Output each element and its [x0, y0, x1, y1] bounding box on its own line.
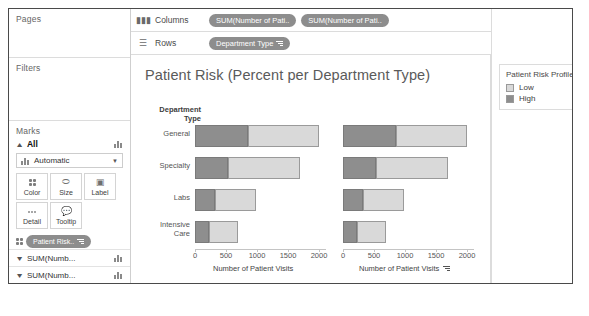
legend-item-high[interactable]: High — [506, 94, 573, 103]
x-axis-line — [195, 249, 326, 250]
x-axis-title-2-label: Number of Patient Visits — [359, 264, 439, 273]
bar-intensive-care — [195, 221, 238, 243]
row-field-header-line2: Type — [141, 114, 201, 123]
sort-icon[interactable] — [443, 265, 450, 272]
x-tick-500: 500 — [368, 251, 381, 260]
marks-card-title: Marks — [16, 126, 123, 136]
legend-item-low[interactable]: Low — [506, 83, 573, 92]
bar-segment-low[interactable] — [209, 221, 238, 243]
label-icon: ▣ — [96, 177, 105, 188]
rows-shelf-label: Rows — [155, 38, 202, 48]
bar-specialty — [195, 157, 300, 179]
filters-shelf-title: Filters — [16, 63, 123, 73]
size-oval-icon: ⬭ — [62, 177, 70, 188]
marks-all-row[interactable]: ▲ All — [9, 138, 130, 153]
marks-tooltip-button[interactable]: 💬 Tooltip — [50, 202, 82, 229]
x-axis-title-1-label: Number of Patient Visits — [213, 264, 293, 273]
x-tick-2000: 2000 — [311, 251, 328, 260]
x-axis-line — [343, 249, 474, 250]
columns-shelf-pills: SUM(Number of Pati.. SUM(Number of Pati.… — [209, 14, 389, 27]
color-legend[interactable]: Patient Risk Profile Low High — [499, 64, 573, 110]
bar-chart-icon — [114, 271, 123, 279]
left-shelf-panel: Pages Filters Marks ▲ All Automatic ▼ — [9, 9, 131, 283]
marks-color-button[interactable]: Color — [16, 173, 48, 200]
legend-label-high: High — [519, 94, 535, 103]
bar-segment-low[interactable] — [363, 189, 404, 211]
bar-segment-high[interactable] — [195, 125, 248, 147]
columns-pill-2[interactable]: SUM(Number of Pati.. — [301, 14, 388, 27]
page-title: Patient Risk (Percent per Department Typ… — [145, 67, 430, 83]
bar-segment-low[interactable] — [228, 157, 300, 179]
bar-segment-high[interactable] — [343, 189, 363, 211]
columns-icon: ▮▮▮ — [138, 15, 148, 25]
marks-card: Marks ▲ All Automatic ▼ Color — [9, 121, 130, 248]
x-tick-1000: 1000 — [397, 251, 414, 260]
marks-buttons-grid: Color ⬭ Size ▣ Label Detail 💬 — [16, 173, 123, 229]
bar-segment-low[interactable] — [357, 221, 386, 243]
columns-shelf-label: Columns — [155, 15, 202, 25]
bar-segment-low[interactable] — [376, 157, 448, 179]
bar-segment-high[interactable] — [195, 157, 228, 179]
marks-label-label: Label — [91, 189, 108, 196]
rows-icon: ☰ — [138, 38, 148, 48]
viz-right-blank — [491, 9, 573, 284]
x-tick-0: 0 — [341, 251, 345, 260]
marks-size-button[interactable]: ⬭ Size — [50, 173, 82, 200]
legend-swatch-high — [506, 95, 514, 103]
legend-label-low: Low — [519, 83, 534, 92]
color-squares-icon — [29, 177, 36, 188]
bar-intensive-care — [343, 221, 386, 243]
mark-type-value: Automatic — [34, 156, 108, 165]
bar-segment-high[interactable] — [343, 157, 376, 179]
bar-chart-icon — [21, 157, 30, 165]
marks-color-pill-row: Patient Risk.. — [16, 235, 123, 248]
tableau-worksheet-window: Pages Filters Marks ▲ All Automatic ▼ — [8, 8, 573, 284]
measure-cards: ▼ SUM(Numb... ▼ SUM(Numb... — [9, 249, 130, 283]
marks-pill-patient-risk[interactable]: Patient Risk.. — [26, 235, 91, 248]
mark-type-select[interactable]: Automatic ▼ — [16, 153, 123, 168]
sort-icon — [276, 40, 283, 47]
marks-detail-button[interactable]: Detail — [16, 202, 48, 229]
bar-segment-high[interactable] — [343, 221, 357, 243]
row-label-intensive-care: IntensiveCare — [146, 220, 195, 238]
legend-swatch-low — [506, 84, 514, 92]
x-tick-0: 0 — [193, 251, 197, 260]
x-tick-500: 500 — [220, 251, 233, 260]
color-legend-title: Patient Risk Profile — [506, 70, 573, 79]
rows-pill-1[interactable]: Department Type — [209, 37, 290, 50]
bar-labs — [195, 189, 256, 211]
row-field-header-line1: Department — [141, 105, 201, 114]
filters-shelf[interactable]: Filters — [9, 58, 130, 121]
bar-general — [195, 125, 319, 147]
bar-chart-icon — [114, 254, 123, 262]
x-tick-1000: 1000 — [249, 251, 266, 260]
columns-pill-1[interactable]: SUM(Number of Pati.. — [209, 14, 296, 27]
color-squares-icon — [16, 238, 23, 245]
marks-detail-label: Detail — [23, 218, 41, 225]
x-tick-1500: 1500 — [428, 251, 445, 260]
marks-label-button[interactable]: ▣ Label — [84, 173, 116, 200]
bar-segment-high[interactable] — [195, 221, 209, 243]
sort-icon — [77, 238, 84, 245]
measure-card-1[interactable]: ▼ SUM(Numb... — [9, 249, 130, 266]
marks-tooltip-label: Tooltip — [56, 218, 76, 225]
bar-specialty — [343, 157, 448, 179]
viz-canvas[interactable]: Patient Risk (Percent per Department Typ… — [131, 55, 491, 284]
bar-chart-icon — [114, 140, 123, 148]
measure-card-2-label: SUM(Numb... — [27, 271, 75, 280]
bar-segment-low[interactable] — [215, 189, 256, 211]
x-tick-2000: 2000 — [459, 251, 476, 260]
bar-segment-high[interactable] — [195, 189, 215, 211]
row-label-general: General — [163, 129, 195, 138]
marks-size-label: Size — [59, 189, 73, 196]
row-label-labs: Labs — [174, 193, 195, 202]
measure-card-2[interactable]: ▼ SUM(Numb... — [9, 266, 130, 283]
chevron-down-icon: ▼ — [112, 158, 118, 164]
bar-segment-low[interactable] — [396, 125, 467, 147]
bar-segment-low[interactable] — [248, 125, 319, 147]
chevron-down-icon: ▼ — [15, 255, 24, 262]
tooltip-icon: 💬 — [61, 206, 72, 217]
pages-shelf[interactable]: Pages — [9, 9, 130, 58]
rows-pill-1-label: Department Type — [216, 39, 273, 48]
bar-segment-high[interactable] — [343, 125, 396, 147]
